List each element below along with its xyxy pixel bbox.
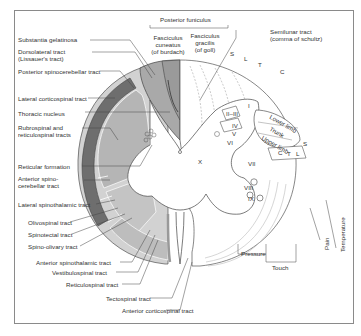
lamina-ii-iii: II–III [226, 110, 238, 117]
lamina-i: I [248, 102, 250, 109]
label-reticulospinal: Reticulospinal tract [66, 281, 118, 288]
gracilis-line3: (of goll) [195, 46, 216, 53]
dorsolateral-line1: Dorsolateral tract [18, 48, 65, 55]
label-pain: Pain [323, 238, 330, 250]
cuneatus-line2: cuneatus [155, 41, 180, 48]
label-spino-olivary: Spino-olivary tract [28, 243, 78, 250]
label-anterior-corticospinal: Anterior corticospinal tract [122, 307, 194, 314]
label-temperature: Temperature [339, 217, 346, 252]
lamina-ix: IX [248, 195, 254, 202]
label-substantia-gelatinosa: Substantia gelatinosa [18, 36, 77, 43]
segment-t: T [258, 61, 262, 68]
segment-c: C [280, 68, 284, 75]
semilunar-line1: Semilunar tract [270, 28, 312, 35]
anterior-spinocerebellar-line2: cerebellar tract [18, 182, 59, 189]
lamina-vii: VII [248, 160, 256, 167]
segment-s: S [230, 50, 234, 57]
label-olivospinal: Olivospinal tract [28, 219, 72, 226]
label-posterior-spinocerebellar: Posterior spinocerebellar tract [18, 68, 100, 75]
cuneatus-line1: Fasciculus [153, 34, 182, 41]
label-anterior-spinothalamic: Anterior spinothalamic tract [36, 259, 111, 266]
label-semilunar-tract: Semilunar tract(comma of schultz) [270, 28, 322, 42]
cuneatus-line3: (of burdach) [151, 48, 184, 55]
label-reticular-formation: Reticular formation [18, 163, 70, 170]
semilunar-line2: (comma of schultz) [270, 35, 322, 42]
lamina-v: V [232, 130, 236, 137]
lamina-iv: IV [232, 122, 238, 129]
label-anterior-spinocerebellar: Anterior spino-cerebellar tract [18, 175, 59, 189]
label-lateral-spinothalamic: Lateral spinothalamic tract [18, 201, 90, 208]
dorsolateral-line2: (Lissauer's tract) [18, 55, 64, 62]
label-fasciculus-gracilis: Fasciculusgracilis(of goll) [188, 32, 222, 54]
segment-side-s: S [303, 140, 307, 147]
label-touch: Touch [272, 264, 289, 271]
gracilis-line1: Fasciculus [190, 32, 219, 39]
gracilis-line2: gracilis [195, 39, 214, 46]
label-spinotectal: Spinotectal tract [28, 231, 72, 238]
segment-bottom-l: L [296, 150, 299, 157]
rubrospinal-line2: reticulospinal tracts [18, 131, 71, 138]
anterior-spinocerebellar-line1: Anterior spino- [18, 175, 58, 182]
label-dorsolateral-tract: Dorsolateral tract(Lissauer's tract) [18, 48, 65, 62]
label-thoracic-nucleus: Thoracic nucleus [18, 110, 65, 117]
rubrospinal-line1: Rubrospinal and [18, 124, 63, 131]
label-posterior-funiculus: Posterior funiculus [160, 16, 211, 23]
lamina-x: X [198, 158, 202, 165]
segment-l: L [244, 55, 247, 62]
label-rubrospinal: Rubrospinal andreticulospinal tracts [18, 124, 71, 138]
lamina-vi: VI [227, 139, 233, 146]
label-tectospinal: Tectospinal tract [106, 295, 151, 302]
label-fasciculus-cuneatus: Fasciculuscuneatus(of burdach) [148, 34, 188, 56]
label-pressure: Pressure [241, 250, 266, 257]
label-vestibulospinal: Vestibulospinal tract [52, 269, 107, 276]
lamina-viii: VIII [244, 184, 253, 191]
label-lateral-corticospinal: Lateral corticospinal tract [18, 95, 87, 102]
